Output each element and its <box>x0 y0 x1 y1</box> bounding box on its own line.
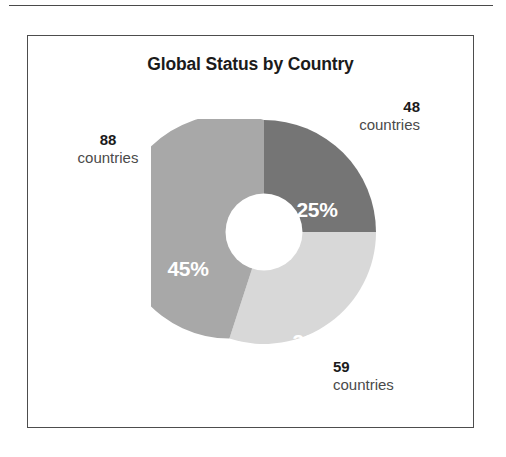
slice-callout-1: 59 countries <box>333 358 457 395</box>
slice-percent-label-1: 30% <box>278 331 348 352</box>
slice-percent-label-2: 45% <box>153 258 223 279</box>
donut-chart <box>151 119 377 345</box>
chart-title: Global Status by Country <box>28 54 473 75</box>
slice-unit-2: countries <box>46 149 170 167</box>
slice-callout-0: 48 countries <box>296 98 420 135</box>
slice-unit-1: countries <box>333 376 457 394</box>
donut-chart-svg <box>151 119 377 345</box>
slice-percent-label-0: 25% <box>282 199 352 220</box>
slice-count-2: 88 <box>46 131 170 149</box>
chart-figure-box: Global Status by Country 25% 30% 45% 48 … <box>27 35 474 428</box>
slice-count-1: 59 <box>333 358 457 376</box>
header-divider-rule <box>9 5 493 6</box>
slice-count-0: 48 <box>296 98 420 116</box>
slice-callout-2: 88 countries <box>46 131 170 168</box>
slice-unit-0: countries <box>296 116 420 134</box>
